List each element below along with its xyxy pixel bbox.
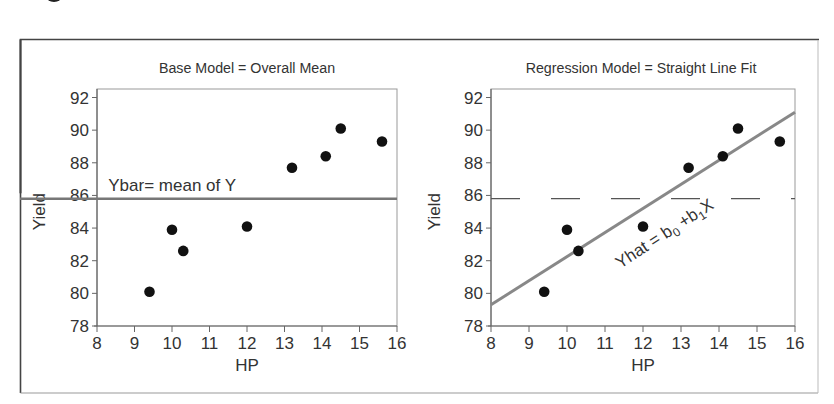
- x-tick-label: 14: [710, 334, 729, 353]
- x-tick-label: 12: [238, 334, 257, 353]
- y-tick-label: 86: [464, 186, 483, 205]
- x-tick-label: 16: [388, 334, 407, 353]
- data-point: [335, 123, 346, 134]
- chart-panel-1: Base Model = Overall Mean788082848688909…: [20, 59, 406, 375]
- data-point: [320, 151, 331, 162]
- data-point: [242, 221, 253, 232]
- data-point: [167, 224, 178, 235]
- y-tick-label: 78: [70, 317, 89, 336]
- x-axis-label: HP: [631, 356, 655, 375]
- x-axis-label: HP: [235, 356, 259, 375]
- data-point: [562, 224, 573, 235]
- y-tick-label: 82: [464, 252, 483, 271]
- data-point: [539, 286, 550, 297]
- chart-title: Regression Model = Straight Line Fit: [526, 59, 758, 76]
- y-tick-label: 92: [464, 89, 483, 108]
- fit-equation-annotation: Yhat = b0 +b1X: [612, 195, 718, 275]
- y-tick-label: 82: [70, 252, 89, 271]
- x-tick-label: 10: [163, 334, 182, 353]
- chart-panel-2: Regression Model = Straight Line Fit7880…: [425, 59, 804, 375]
- data-point: [178, 246, 189, 257]
- x-tick-label: 10: [558, 334, 577, 353]
- x-tick-label: 9: [130, 334, 139, 353]
- x-tick-label: 8: [92, 334, 101, 353]
- y-tick-label: 86: [70, 186, 89, 205]
- figure-svg: Base Model = Overall Mean788082848688909…: [0, 0, 834, 404]
- y-tick-label: 88: [464, 154, 483, 173]
- y-tick-label: 78: [464, 317, 483, 336]
- plot-area: [97, 89, 397, 326]
- x-tick-label: 15: [748, 334, 767, 353]
- x-tick-label: 13: [672, 334, 691, 353]
- x-tick-label: 12: [634, 334, 653, 353]
- y-tick-label: 80: [464, 284, 483, 303]
- y-axis-label: Yield: [425, 193, 444, 230]
- y-tick-label: 90: [70, 121, 89, 140]
- data-point: [144, 286, 155, 297]
- data-point: [775, 136, 786, 147]
- data-point: [718, 151, 729, 162]
- x-tick-label: 11: [201, 334, 219, 353]
- data-point: [377, 136, 388, 147]
- y-tick-label: 80: [70, 284, 89, 303]
- data-point: [683, 162, 694, 173]
- y-tick-label: 92: [70, 89, 89, 108]
- x-tick-label: 13: [275, 334, 294, 353]
- y-tick-label: 90: [464, 121, 483, 140]
- x-tick-label: 11: [596, 334, 614, 353]
- data-point: [573, 246, 584, 257]
- x-tick-label: 9: [524, 334, 533, 353]
- mean-annotation: Ybar= mean of Y: [108, 176, 236, 195]
- chart-title: Base Model = Overall Mean: [159, 59, 335, 76]
- x-tick-label: 8: [486, 334, 495, 353]
- data-point: [733, 123, 744, 134]
- y-tick-label: 88: [70, 154, 89, 173]
- x-tick-label: 14: [313, 334, 332, 353]
- y-tick-label: 84: [70, 219, 89, 238]
- y-tick-label: 84: [464, 219, 483, 238]
- x-tick-label: 15: [350, 334, 369, 353]
- data-point: [287, 162, 298, 173]
- x-tick-label: 16: [786, 334, 805, 353]
- data-point: [638, 221, 649, 232]
- regression-fit-line: [491, 112, 795, 305]
